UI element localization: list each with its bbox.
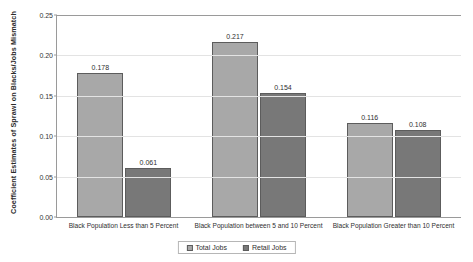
bar-value-label: 0.154 [274,84,292,91]
bar-wrapper: 0.061 [125,15,171,217]
bar-value-label: 0.178 [92,64,110,71]
y-tick-mark [54,95,57,96]
bar-wrapper: 0.108 [395,15,441,217]
y-tick-label: 0.10 [39,133,53,140]
bar-wrapper: 0.154 [260,15,306,217]
y-tick-mark [54,15,57,16]
x-axis-labels: Black Population Less than 5 PercentBlac… [56,222,461,229]
x-axis-category-label: Black Population Less than 5 Percent [56,222,191,229]
gridline [57,96,461,97]
bar-value-label: 0.061 [140,159,158,166]
gridline [57,15,461,16]
bar-group-bars: 0.2170.154 [192,15,327,217]
bar-group-bars: 0.1160.108 [326,15,461,217]
bar-wrapper: 0.217 [212,15,258,217]
legend-label-total-jobs: Total Jobs [195,244,227,251]
bar-value-label: 0.217 [226,33,244,40]
bar-group-bars: 0.1780.061 [57,15,192,217]
bar-groups: 0.1780.0610.2170.1540.1160.108 [57,15,461,217]
y-tick-label: 0.15 [39,92,53,99]
y-tick-label: 0.25 [39,12,53,19]
bar[interactable] [395,130,441,217]
gridline [57,55,461,56]
legend-item-retail-jobs[interactable]: Retail Jobs [243,244,287,251]
bar[interactable] [260,93,306,217]
bar-wrapper: 0.178 [77,15,123,217]
y-tick-label: 0.05 [39,173,53,180]
gridline [57,136,461,137]
x-axis-category-label: Black Population between 5 and 10 Percen… [191,222,326,229]
y-tick-mark [54,176,57,177]
legend-swatch-retail-jobs [243,245,249,251]
bar-value-label: 0.108 [409,121,427,128]
bar-group: 0.1160.108 [326,15,461,217]
legend-label-retail-jobs: Retail Jobs [252,244,287,251]
bar-chart: Coefficient Estimates of Sprawl on Black… [0,0,473,262]
y-tick-mark [54,217,57,218]
bar[interactable] [212,42,258,217]
legend: Total Jobs Retail Jobs [177,241,295,254]
bar-group: 0.1780.061 [57,15,192,217]
x-axis-category-label: Black Population Greater than 10 Percent [326,222,461,229]
bar[interactable] [347,123,393,217]
bar-value-label: 0.116 [361,114,378,121]
bar-wrapper: 0.116 [347,15,393,217]
y-tick-mark [54,55,57,56]
y-tick-label: 0.20 [39,52,53,59]
gridline [57,177,461,178]
bar[interactable] [77,73,123,217]
y-axis-title: Coefficient Estimates of Sprawl on Black… [9,8,18,218]
legend-item-total-jobs[interactable]: Total Jobs [186,244,227,251]
y-tick-mark [54,136,57,137]
plot-area: 0.1780.0610.2170.1540.1160.108 0.000.050… [56,15,461,218]
y-tick-label: 0.00 [39,214,53,221]
legend-swatch-total-jobs [186,245,192,251]
bar-group: 0.2170.154 [192,15,327,217]
bar[interactable] [125,168,171,217]
